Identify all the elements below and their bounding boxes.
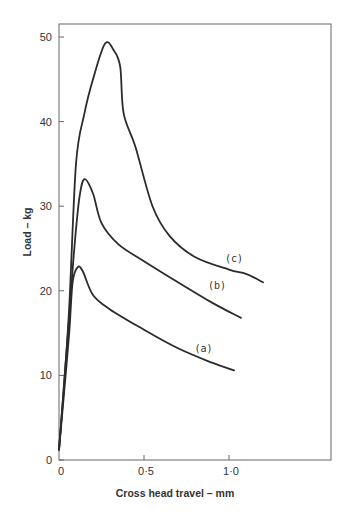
y-tick-label: 30 [40,200,52,212]
series-curves [59,42,263,450]
y-tick-label: 20 [40,285,52,297]
curve-b [59,179,241,450]
x-tick-label: 0 [58,465,64,477]
curve-a [59,266,234,449]
series-label-b: (b) [208,280,226,291]
y-axis-label: Load – kg [21,207,33,256]
series-label-c: (c) [225,253,243,264]
load-vs-travel-chart: 01020304050 00·51·0 (a)(b)(c) Cross head… [0,0,347,515]
x-tick-label: 0·5 [138,465,154,477]
y-tick-label: 0 [46,454,52,466]
x-axis-label: Cross head travel – mm [116,487,234,499]
y-tick-label: 40 [40,116,52,128]
x-axis-ticks: 00·51·0 [58,455,239,477]
plot-frame [59,24,331,460]
y-axis-ticks: 01020304050 [40,31,64,466]
curve-c [59,42,263,450]
y-tick-label: 50 [40,31,52,43]
x-tick-label: 1·0 [223,465,239,477]
series-label-a: (a) [194,343,212,354]
series-labels: (a)(b)(c) [194,253,243,354]
y-tick-label: 10 [40,369,52,381]
